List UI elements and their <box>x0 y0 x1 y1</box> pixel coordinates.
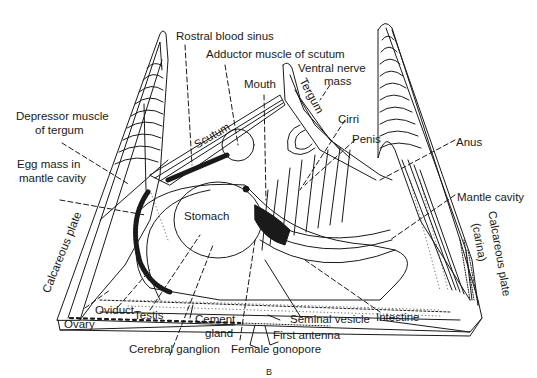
label-anus: Anus <box>456 136 482 149</box>
label-stomach: Stomach <box>184 210 229 223</box>
label-ventral-nerve-line1: Ventral nerve <box>298 62 366 75</box>
label-cement-line2: gland <box>205 327 233 340</box>
label-adductor-muscle-of-scutum: Adductor muscle of scutum <box>206 48 345 61</box>
label-mouth: Mouth <box>244 78 276 91</box>
label-mantle-cavity: Mantle cavity <box>457 191 524 204</box>
label-seminal-vesicle: Seminal vesicle <box>290 313 370 326</box>
barnacle-anatomy-figure: Rostral blood sinus Adductor muscle of s… <box>0 0 537 378</box>
label-depressor-muscle-line2: of tergum <box>35 124 84 137</box>
panel-label: B <box>266 366 272 378</box>
label-cerebral-ganglion: Cerebral ganglion <box>129 343 220 356</box>
label-penis: Penis <box>352 133 381 146</box>
label-depressor-muscle-line1: Depressor muscle <box>16 110 109 123</box>
cement-gland-leader <box>190 305 193 318</box>
seminal-vesicle-leader <box>265 260 300 316</box>
label-oviduct: Oviduct <box>95 304 134 317</box>
label-testis: Testis <box>134 309 163 322</box>
label-egg-mass-line1: Egg mass in <box>17 158 80 171</box>
label-cirri: Cirri <box>338 113 359 126</box>
label-egg-mass-line2: mantle cavity <box>19 172 86 185</box>
label-cement-line1: Cement <box>195 313 235 326</box>
label-rostral-blood-sinus: Rostral blood sinus <box>176 30 274 43</box>
label-female-gonopore: Female gonopore <box>231 343 321 356</box>
label-intestine: Intestine <box>376 311 419 324</box>
label-ventral-nerve-line2: mass <box>324 75 351 88</box>
label-first-antenna: First antenna <box>273 329 340 342</box>
label-ovary: Ovary <box>64 318 95 331</box>
